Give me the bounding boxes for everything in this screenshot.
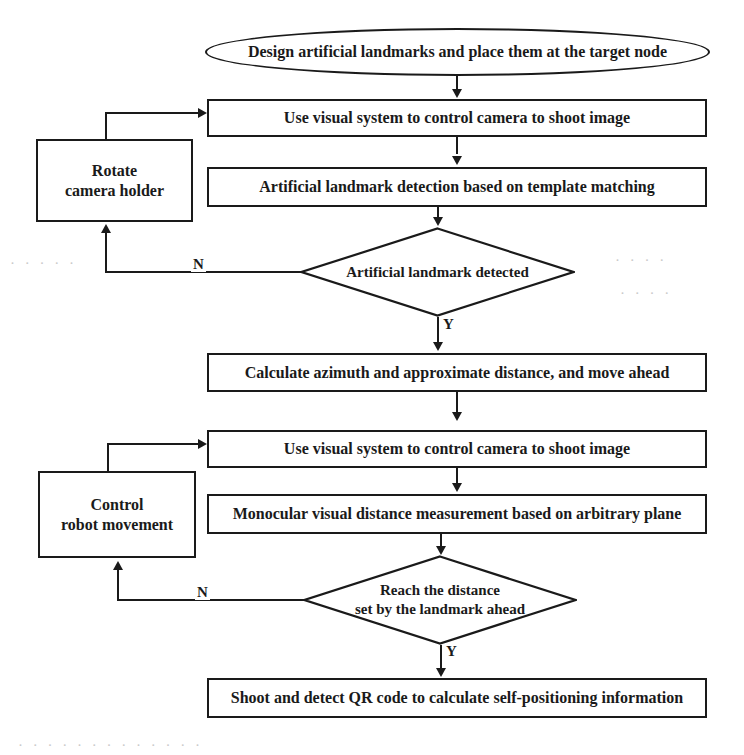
edge-label-landmark-yes: Y: [441, 317, 456, 332]
node-control-robot-movement-label: Control robot movement: [61, 495, 173, 535]
node-shoot-image-1: Use visual system to control camera to s…: [207, 99, 707, 137]
edge-label-distance-yes: Y: [444, 644, 459, 659]
arrowhead-icon: [452, 89, 462, 98]
edge-rotate-to-shoot1: [105, 112, 200, 114]
arrowhead-icon: [198, 439, 207, 449]
node-start-label: Design artificial landmarks and place th…: [248, 42, 667, 62]
edge-decision-distance-no: [117, 599, 305, 601]
node-control-robot-movement: Control robot movement: [38, 471, 196, 558]
edge-decision-distance-no-riser: [117, 570, 119, 600]
edge-shoot2-to-monocular: [456, 468, 458, 484]
edge-rotate-riser: [105, 112, 107, 140]
node-shoot-image-1-label: Use visual system to control camera to s…: [284, 108, 630, 128]
node-calculate-azimuth: Calculate azimuth and approximate distan…: [207, 353, 707, 392]
node-qr-code: Shoot and detect QR code to calculate se…: [207, 678, 707, 718]
edge-label-landmark-no: N: [191, 257, 206, 272]
arrowhead-icon: [436, 668, 446, 677]
node-decision-distance: Reach the distance set by the landmark a…: [303, 555, 577, 645]
scan-artifact: · · · · ·: [10, 255, 77, 272]
edge-decision-landmark-no-riser: [105, 233, 107, 272]
scan-artifact: · · · · · · · · · · · · ·: [18, 737, 203, 754]
arrowhead-icon: [433, 217, 443, 226]
node-start: Design artificial landmarks and place th…: [205, 28, 710, 76]
edge-azimuth-to-shoot2: [456, 392, 458, 413]
node-decision-landmark-label: Artificial landmark detected: [330, 263, 545, 282]
edge-control-to-shoot2: [107, 443, 200, 445]
arrowhead-icon: [452, 156, 462, 165]
node-landmark-detection-label: Artificial landmark detection based on t…: [259, 177, 655, 197]
edge-label-distance-no: N: [195, 585, 210, 600]
edge-decision-landmark-yes: [437, 317, 439, 343]
node-shoot-image-2-label: Use visual system to control camera to s…: [284, 439, 630, 459]
scan-artifact: · · · ·: [620, 285, 672, 302]
flowchart-canvas: Design artificial landmarks and place th…: [0, 0, 744, 755]
node-landmark-detection: Artificial landmark detection based on t…: [207, 167, 707, 207]
edge-shoot1-to-detection: [456, 137, 458, 154]
arrowhead-icon: [452, 483, 462, 492]
node-monocular-measurement: Monocular visual distance measurement ba…: [207, 494, 707, 534]
arrowhead-icon: [436, 546, 446, 555]
edge-control-riser: [107, 443, 109, 473]
arrowhead-icon: [198, 108, 207, 118]
node-calculate-azimuth-label: Calculate azimuth and approximate distan…: [245, 363, 670, 383]
node-shoot-image-2: Use visual system to control camera to s…: [207, 430, 707, 468]
arrowhead-icon: [101, 224, 111, 233]
node-rotate-camera-holder: Rotate camera holder: [36, 139, 193, 222]
arrowhead-icon: [452, 412, 462, 421]
arrowhead-icon: [113, 561, 123, 570]
node-decision-distance-label: Reach the distance set by the landmark a…: [333, 581, 547, 619]
node-qr-code-label: Shoot and detect QR code to calculate se…: [231, 688, 683, 708]
edge-start-to-shoot1: [456, 76, 458, 90]
edge-decision-distance-yes: [440, 645, 442, 669]
node-decision-landmark: Artificial landmark detected: [300, 227, 575, 317]
node-monocular-measurement-label: Monocular visual distance measurement ba…: [233, 504, 682, 524]
arrowhead-icon: [433, 342, 443, 351]
node-rotate-camera-holder-label: Rotate camera holder: [65, 161, 164, 201]
scan-artifact: · · · ·: [615, 252, 667, 269]
